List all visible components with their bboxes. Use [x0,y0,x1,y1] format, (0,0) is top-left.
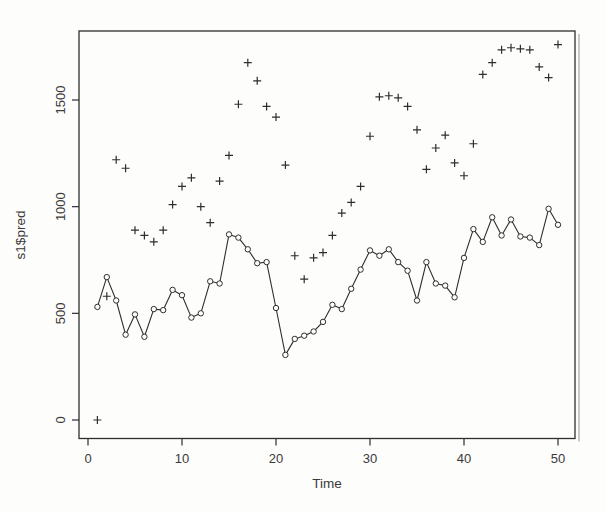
pred-point-circle [320,319,325,324]
observed-point-plus [385,92,393,100]
observed-point-plus [469,140,477,148]
pred-point-circle [367,248,372,253]
pred-point-circle [330,302,335,307]
observed-point-plus [375,93,383,101]
pred-point-circle [245,247,250,252]
pred-point-circle [443,283,448,288]
observed-point-plus [479,70,487,78]
pred-point-circle [189,315,194,320]
pred-point-circle [471,226,476,231]
observed-point-plus [507,44,515,52]
observed-point-plus [535,63,543,71]
observed-point-plus [216,177,224,185]
pred-point-circle [123,332,128,337]
pred-point-circle [349,286,354,291]
pred-point-circle [208,279,213,284]
observed-point-plus [366,132,374,140]
pred-point-circle [414,298,419,303]
pred-point-circle [255,261,260,266]
x-tick-label: 30 [363,451,377,466]
observed-point-plus [357,182,365,190]
pred-point-circle [518,234,523,239]
axes: 01020304050050010001500 [53,31,579,466]
observed-point-plus [131,226,139,234]
observed-point-plus [460,172,468,180]
observed-point-plus [394,94,402,102]
pred-point-circle [386,247,391,252]
observed-point-plus [263,102,271,110]
observed-point-plus [291,252,299,260]
pred-point-circle [377,253,382,258]
observed-point-plus [441,131,449,139]
observed-plus-series [93,41,562,424]
observed-point-plus [159,226,167,234]
observed-point-plus [300,275,308,283]
data-series [93,41,562,424]
observed-point-plus [103,292,111,300]
observed-point-plus [404,102,412,110]
pred-point-circle [433,281,438,286]
observed-point-plus [432,144,440,152]
pred-point-circle [161,307,166,312]
pred-point-circle [452,295,457,300]
x-tick-label: 20 [269,451,283,466]
pred-point-circle [546,206,551,211]
observed-point-plus [545,74,553,82]
pred-point-circle [508,217,513,222]
x-tick-label: 50 [551,451,565,466]
observed-point-plus [140,231,148,239]
pred-point-circle [405,268,410,273]
observed-point-plus [554,41,562,49]
observed-point-plus [498,46,506,54]
observed-point-plus [225,151,233,159]
observed-point-plus [197,203,205,211]
observed-point-plus [451,159,459,167]
pred-point-circle [114,298,119,303]
observed-point-plus [422,165,430,173]
observed-point-plus [169,201,177,209]
y-tick-label: 1000 [53,192,68,221]
pred-point-circle [339,306,344,311]
y-tick-label: 0 [53,416,68,423]
pred-point-circle [198,311,203,316]
pred-point-circle [264,259,269,264]
observed-point-plus [150,238,158,246]
pred-point-circle [424,259,429,264]
pred-point-circle [396,259,401,264]
observed-point-plus [310,254,318,262]
observed-point-plus [526,46,534,54]
pred-point-circle [179,293,184,298]
observed-point-plus [347,198,355,206]
y-tick-label: 1500 [53,86,68,115]
pred-point-circle [555,222,560,227]
pred-point-circle [236,235,241,240]
observed-point-plus [272,113,280,121]
pred-point-circle [499,233,504,238]
pred-point-circle [95,304,100,309]
observed-point-plus [328,231,336,239]
observed-point-plus [112,156,120,164]
observed-point-plus [253,77,261,85]
observed-point-plus [413,126,421,134]
observed-point-plus [338,209,346,217]
pred-point-circle [283,352,288,357]
observed-point-plus [516,45,524,53]
pred-point-circle [461,255,466,260]
pred-point-circle [217,281,222,286]
x-axis-title: Time [312,476,342,491]
x-tick-label: 40 [457,451,471,466]
observed-point-plus [93,416,101,424]
pred-point-circle [537,242,542,247]
pred-line-series [95,206,561,357]
y-axis-title: s1$pred [13,211,28,260]
pred-point-circle [226,232,231,237]
figure: 01020304050050010001500 Time s1$pred [0,0,606,513]
pred-point-circle [358,267,363,272]
observed-point-plus [488,59,496,67]
y-tick-label: 500 [53,302,68,324]
observed-point-plus [244,59,252,67]
pred-point-circle [170,287,175,292]
pred-point-circle [142,334,147,339]
observed-point-plus [178,182,186,190]
observed-point-plus [187,174,195,182]
